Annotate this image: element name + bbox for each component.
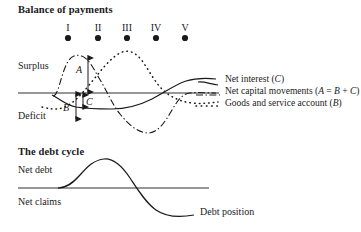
legend-key-solid [198,82,218,85]
series-a-net-capital-movements [53,55,216,133]
legend-entry-net-interest: Net interest (C) [225,74,284,84]
phase-dot-4 [153,35,159,41]
phase-dot-2 [95,35,101,41]
legend-entry-net-capital-movements: Net capital movements (A = B + C) [225,86,359,96]
net-debt-label: Net debt [18,164,52,175]
series-c-net-interest [52,78,216,109]
phase-dot-1 [65,35,71,41]
debt-cycle-title: The debt cycle [18,146,84,157]
net-claims-label: Net claims [18,196,61,207]
economics-figure: Balance of payments I II III IV V Surplu… [0,0,361,232]
phase-dot-5 [182,35,188,41]
legend-entry-goods-and-service-account: Goods and service account (B) [225,98,342,108]
debt-position-label: Debt position [200,206,254,217]
phase-dot-3 [124,35,130,41]
